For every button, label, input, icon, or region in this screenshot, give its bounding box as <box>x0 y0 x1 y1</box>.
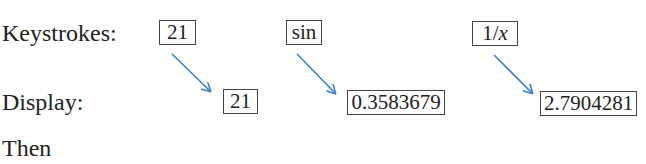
arrow-icon <box>494 55 532 93</box>
arrow-icon <box>172 54 210 91</box>
arrows-layer <box>0 0 646 164</box>
arrow-icon <box>297 54 335 93</box>
